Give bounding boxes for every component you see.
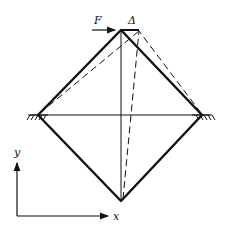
deformed-left-top [40, 31, 139, 113]
y-axis-label: y [13, 146, 21, 159]
support-right [192, 115, 215, 120]
member-left-top-right [38, 30, 202, 115]
x-axis-label: x [113, 210, 120, 223]
displacement-label: Δ [127, 14, 136, 27]
force-label: F [93, 14, 102, 27]
internal-members [30, 30, 210, 201]
deformed-right-top [139, 31, 201, 113]
support-left [27, 115, 48, 120]
member-left-bottom-right [38, 115, 202, 201]
truss-diagram: F Δ y x [0, 0, 227, 230]
